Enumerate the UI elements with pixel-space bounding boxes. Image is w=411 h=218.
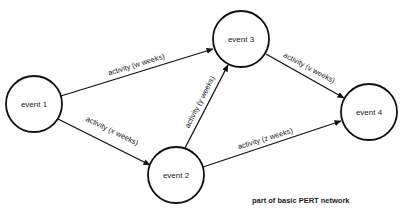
node-label: event 4 — [356, 108, 383, 117]
edge-label-x: activity (x weeks) — [84, 114, 140, 147]
node-label: event 1 — [21, 100, 48, 109]
node-event-3: event 3 — [213, 11, 269, 67]
node-event-4: event 4 — [341, 84, 397, 140]
edge-label-y: activity (y weeks) — [183, 74, 217, 129]
arrow-line — [61, 49, 213, 96]
diagram-caption: part of basic PERT network — [252, 196, 350, 205]
edge-event1-event2: activity (x weeks) — [58, 114, 150, 165]
edge-event2-event3: activity (y weeks) — [183, 65, 228, 148]
edge-label-z: activity (z weeks) — [237, 126, 295, 151]
pert-network-diagram: activity (w weeks) activity (x weeks) ac… — [0, 0, 411, 218]
edge-event2-event4: activity (z weeks) — [203, 121, 341, 167]
node-label: event 3 — [228, 35, 255, 44]
edge-label-w: activity (w weeks) — [107, 52, 166, 78]
edge-event1-event3: activity (w weeks) — [61, 49, 213, 96]
node-label: event 2 — [163, 171, 190, 180]
node-event-1: event 1 — [6, 76, 62, 132]
arrow-line — [203, 121, 341, 167]
node-event-2: event 2 — [148, 147, 204, 203]
edge-event3-event4: activity (v weeks) — [266, 50, 344, 98]
